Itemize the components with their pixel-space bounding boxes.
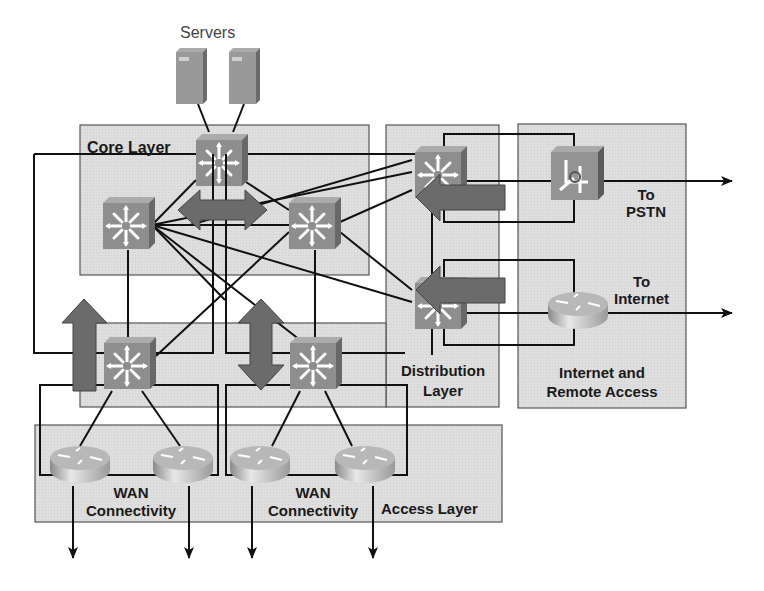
to-internet-label: To Internet (614, 273, 669, 307)
core-switch-icon (196, 134, 248, 186)
to-pstn-line2: PSTN (626, 203, 666, 220)
to-internet-line2: Internet (614, 290, 669, 307)
wan-1-line2: Connectivity (76, 502, 186, 519)
server-icon (229, 48, 260, 104)
distribution-line2: Layer (389, 382, 497, 399)
wan-2-line1: WAN (256, 484, 370, 501)
to-pstn-line1: To (626, 186, 666, 203)
wan-connectivity-label-1: WAN Connectivity (76, 484, 186, 519)
to-pstn-label: To PSTN (626, 186, 666, 220)
distribution-line1: Distribution (389, 362, 497, 379)
wan-router-icon (50, 446, 110, 483)
distribution-layer-label: Distribution Layer (389, 362, 497, 399)
internet-remote-access-label: Internet and Remote Access (522, 364, 682, 400)
wan-router-icon (230, 446, 290, 483)
servers-label: Servers (180, 24, 235, 41)
wan-router-icon (335, 446, 395, 483)
core-switch-icon (103, 197, 155, 249)
core-layer-label: Core Layer (87, 139, 171, 156)
internet-line1: Internet and (522, 364, 682, 381)
distribution-switch-icon (104, 337, 156, 389)
wan-router-icon (153, 446, 213, 483)
distribution-switch-icon (290, 337, 342, 389)
core-switch-icon (289, 197, 341, 249)
to-internet-line1: To (614, 273, 669, 290)
wan-1-line1: WAN (76, 484, 186, 501)
wan-connectivity-label-2: WAN Connectivity (256, 484, 370, 519)
internet-line2: Remote Access (522, 383, 682, 400)
internet-router-icon (548, 292, 608, 329)
voice-switch-icon (551, 146, 604, 200)
server-icon (176, 48, 207, 104)
access-layer-label: Access Layer (381, 500, 478, 517)
wan-2-line2: Connectivity (256, 502, 370, 519)
